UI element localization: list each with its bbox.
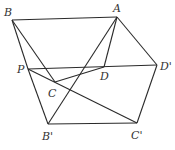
point-label-Bp: B' (41, 130, 53, 143)
geometry-diagram: ABPCDD'B'C' (0, 0, 175, 150)
point-label-D: D (99, 70, 109, 83)
segment-Bp-Cp (48, 123, 137, 124)
segment-Dp-Cp (137, 65, 157, 123)
edges-group (12, 17, 157, 124)
segment-B-A (12, 17, 117, 20)
segment-A-Dp (117, 17, 157, 65)
segment-B-P (12, 20, 28, 69)
point-label-B: B (3, 6, 12, 19)
point-label-P: P (16, 63, 25, 76)
point-label-C: C (48, 87, 57, 100)
segment-A-D (104, 17, 117, 67)
segment-P-Dp (28, 65, 157, 69)
point-label-Cp: C' (131, 129, 142, 142)
point-label-A: A (112, 2, 121, 15)
point-label-Dp: D' (159, 60, 172, 73)
